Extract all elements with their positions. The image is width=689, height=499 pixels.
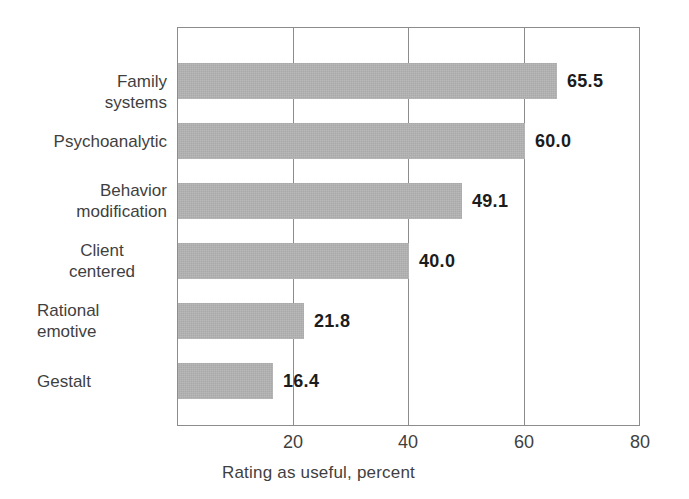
- bar-value-label: 49.1: [472, 183, 508, 219]
- category-label-text: Behavior modification: [76, 180, 167, 222]
- category-label-text: Family systems: [105, 71, 167, 113]
- bar-rational-emotive: [178, 303, 304, 339]
- category-label-text: Gestalt: [37, 371, 167, 392]
- bar-value-label: 40.0: [419, 243, 455, 279]
- bar-behavior-modification: [178, 183, 462, 219]
- bar-value-label: 65.5: [567, 63, 603, 99]
- bar-chart: 65.5 60.0 49.1 40.0 21.8 16.4 Family sys…: [0, 0, 689, 499]
- xtick-60: 60: [514, 432, 534, 453]
- xtick-40: 40: [398, 432, 418, 453]
- bar-gestalt: [178, 363, 273, 399]
- category-label-text: Psychoanalytic: [54, 131, 167, 152]
- x-axis-title: Rating as useful, percent: [0, 463, 689, 483]
- xtick-20: 20: [283, 432, 303, 453]
- category-label-text: Rational emotive: [37, 300, 167, 342]
- x-axis-title-text: Rating as useful, percent: [222, 463, 415, 483]
- bar-client-centered: [178, 243, 409, 279]
- bar-value-label: 60.0: [535, 123, 571, 159]
- bar-psychoanalytic: [178, 123, 525, 159]
- bar-family-systems: [178, 63, 557, 99]
- bar-value-label: 16.4: [283, 363, 319, 399]
- bar-value-label: 21.8: [314, 303, 350, 339]
- plot-area: 65.5 60.0 49.1 40.0 21.8 16.4: [177, 27, 640, 426]
- category-label-text: Client centered: [37, 240, 167, 282]
- xtick-80: 80: [630, 432, 650, 453]
